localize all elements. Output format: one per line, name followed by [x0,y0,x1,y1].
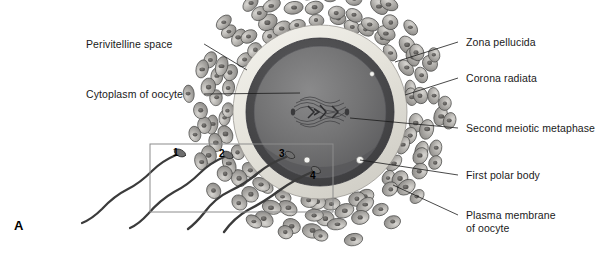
corona-cell-nucleus [257,11,262,15]
corona-cell-nucleus [419,73,424,77]
corona-cell-nucleus [223,132,229,137]
corona-cell-nucleus [225,109,229,113]
label-zona-pellucida: Zona pellucida [466,36,536,49]
corona-cell-nucleus [386,3,392,7]
corona-cell-nucleus [242,58,247,62]
sperm-head-at-zona [370,72,375,77]
corona-cell-nucleus [261,216,267,221]
corona-cell-nucleus [389,20,394,25]
corona-cell-nucleus [235,150,239,154]
corona-cell-nucleus [251,220,256,224]
label-first-polar-body: First polar body [466,169,540,182]
sperm-number-2: 2 [219,148,225,159]
corona-cell-nucleus [280,195,285,199]
corona-cell-nucleus [211,188,216,192]
corona-cell-nucleus [383,31,389,35]
corona-cell-nucleus [226,86,231,90]
corona-cell-nucleus [199,68,205,72]
corona-cell-nucleus [227,30,232,34]
corona-cell-nucleus [311,214,316,218]
corona-cell-nucleus [264,20,270,25]
corona-cell-nucleus [248,1,253,5]
leader-right-4 [393,185,458,215]
corona-cell-nucleus [362,203,368,207]
corona-cell-nucleus [294,23,299,27]
corona-cell-nucleus [397,176,402,181]
corona-cell-nucleus [433,161,437,165]
corona-cell-nucleus [354,196,359,201]
corona-cell-nucleus [323,216,328,221]
corona-cell-nucleus [248,192,253,197]
sperm-number-4: 4 [310,170,316,181]
corona-cell-nucleus [237,176,242,181]
corona-cell-nucleus [199,160,204,164]
corona-cell-nucleus [206,85,211,90]
label-plasma-membrane-line2: of oocyte [466,222,510,235]
corona-cell-nucleus [434,146,439,150]
corona-cell-nucleus [390,220,395,224]
corona-cell-nucleus [286,206,292,210]
corona-cell-nucleus [226,162,232,166]
corona-cell-nucleus [208,58,213,62]
corona-cell-nucleus [312,5,318,9]
corona-cell-nucleus [378,207,383,211]
corona-cell-nucleus [443,101,447,105]
label-plasma-membrane: Plasma membrane [466,209,556,222]
corona-cell-nucleus [388,51,393,55]
corona-cell-nucleus [404,42,410,47]
corona-cell-nucleus [334,11,339,15]
corona-cell-nucleus [227,70,232,74]
corona-cell-nucleus [358,215,363,219]
label-second-meiotic-metaphase: Second meiotic metaphase [466,122,595,135]
corona-cell-nucleus [417,94,422,98]
corona-cell-nucleus [291,5,297,9]
label-corona-radiata: Corona radiata [466,72,537,85]
corona-cell-nucleus [236,201,241,205]
corona-cell-nucleus [221,21,226,25]
corona-cell-nucleus [318,234,322,238]
corona-cell-nucleus [246,34,251,38]
corona-cell-nucleus [438,114,444,118]
corona-cell-nucleus [447,118,452,122]
corona-cell-nucleus [388,187,393,191]
corona-cell-nucleus [408,26,413,30]
corona-cell-nucleus [432,94,437,98]
corona-cell-nucleus [413,50,418,54]
corona-cell-nucleus [219,64,225,68]
corona-cell-nucleus [417,153,422,157]
corona-cell-nucleus [223,171,228,176]
corona-cell-nucleus [198,108,203,112]
corona-cell-nucleus [267,34,272,39]
corona-radiata-cell [321,0,339,2]
corona-cell-nucleus [314,18,318,22]
sperm-1-tail [82,155,176,223]
sperm-number-3: 3 [279,148,285,159]
corona-cell-nucleus [283,230,288,234]
sperm-head-in-cytoplasm [304,157,310,163]
corona-cell-nucleus [186,92,191,96]
corona-cell-nucleus [268,4,274,8]
corona-cell-nucleus [404,66,409,70]
corona-cell-nucleus [206,153,212,158]
corona-cell-nucleus [202,123,207,127]
corona-cell-nucleus [248,168,253,172]
label-perivitelline-space: Perivitelline space [86,38,173,51]
corona-cell-nucleus [335,223,341,227]
corona-cell-nucleus [367,23,372,27]
corona-cell-nucleus [432,53,436,57]
corona-radiata-cell [345,0,362,6]
corona-cell-nucleus [279,26,285,30]
corona-cell-nucleus [258,182,263,186]
corona-cell-nucleus [235,35,241,39]
figure-oocyte-fertilization: Perivitelline space Cytoplasm of oocyte … [0,0,610,254]
corona-cell-nucleus [386,176,391,180]
corona-cell-nucleus [214,95,219,99]
corona-cell-nucleus [268,206,274,210]
corona-cell-nucleus [342,209,348,213]
corona-cell-nucleus [424,127,430,131]
corona-cell-nucleus [408,134,413,138]
label-cytoplasm-of-oocyte: Cytoplasm of oocyte [86,88,183,101]
panel-letter: A [14,218,23,233]
corona-cell-nucleus [351,13,356,17]
corona-cell-nucleus [403,185,409,189]
